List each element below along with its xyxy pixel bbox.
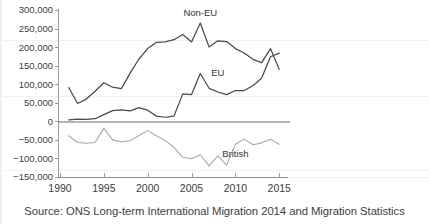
x-axis-tick-label: 2015 <box>268 182 292 194</box>
x-axis-tick-labels: 199019952000200520102015 <box>48 182 291 194</box>
y-axis-tick-label: −150,000 <box>13 171 53 182</box>
x-axis-tick-label: 2005 <box>180 182 204 194</box>
x-axis-tick-label: 2010 <box>224 182 248 194</box>
series-label-eu: EU <box>211 67 224 78</box>
series-label-non-eu: Non-EU <box>183 7 217 18</box>
y-axis-tick-label: −50,000 <box>18 134 53 145</box>
x-axis-tick-label: 1995 <box>92 182 116 194</box>
migration-line-chart-figure: 300,000250,000200,000150,000100,00050,00… <box>0 0 429 224</box>
y-axis-tick-label: −100,000 <box>13 153 53 164</box>
y-axis-tick-label: 200,000 <box>19 42 53 53</box>
y-axis-tick-label: 250,000 <box>19 23 53 34</box>
y-axis-tick-label: 300,000 <box>19 4 53 15</box>
chart-plot-area: 300,000250,000200,000150,000100,00050,00… <box>0 0 429 200</box>
y-axis-tick-label: 50,000 <box>24 97 53 108</box>
series-line-non-eu <box>69 23 279 104</box>
y-axis-tick-label: 100,000 <box>19 79 53 90</box>
y-axis-tick-label: 150,000 <box>19 60 53 71</box>
x-axis-tick-label: 2000 <box>136 182 160 194</box>
series-label-british: British <box>222 148 248 159</box>
series-inline-labels: Non-EUEUBritish <box>183 7 248 158</box>
y-axis-tick-label: 0 <box>48 116 53 127</box>
background-bands <box>0 40 429 170</box>
x-axis-tick-label: 1990 <box>48 182 72 194</box>
y-axis-tick-labels: 300,000250,000200,000150,000100,00050,00… <box>13 4 53 182</box>
source-caption: Source: ONS Long-term International Migr… <box>0 198 429 224</box>
